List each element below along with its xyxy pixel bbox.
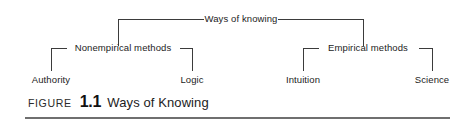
- root-bracket-right-segment: [278, 19, 364, 20]
- branch-right-bracket-right-segment: [419, 48, 432, 49]
- branch-right-drop-science: [432, 48, 433, 71]
- leaf-label-authority: Authority: [32, 74, 70, 85]
- caption-number: 1.1: [80, 93, 102, 111]
- root-node-label: Ways of knowing: [205, 13, 278, 24]
- caption-prefix: FIGURE: [28, 97, 72, 109]
- branch-left-bracket-left-segment: [51, 48, 67, 49]
- branch-right-bracket-left-segment: [303, 48, 319, 49]
- leaf-label-logic: Logic: [180, 74, 203, 85]
- branch-label-empirical-methods: Empirical methods: [328, 42, 408, 53]
- branch-label-nonempirical-methods: Nonempirical methods: [75, 42, 172, 53]
- branch-right-drop-intuition: [303, 48, 304, 71]
- caption-divider-rule: [25, 117, 450, 119]
- root-bracket-left-segment: [118, 19, 204, 20]
- leaf-label-science: Science: [415, 74, 450, 85]
- branch-left-drop-authority: [51, 48, 52, 71]
- leaf-label-intuition: Intuition: [286, 74, 320, 85]
- branch-left-drop-logic: [192, 48, 193, 71]
- caption-title: Ways of Knowing: [107, 95, 208, 110]
- figure-ways-of-knowing: Ways of knowing Nonempirical methods Emp…: [0, 0, 472, 124]
- figure-caption: FIGURE 1.1 Ways of Knowing: [26, 93, 209, 111]
